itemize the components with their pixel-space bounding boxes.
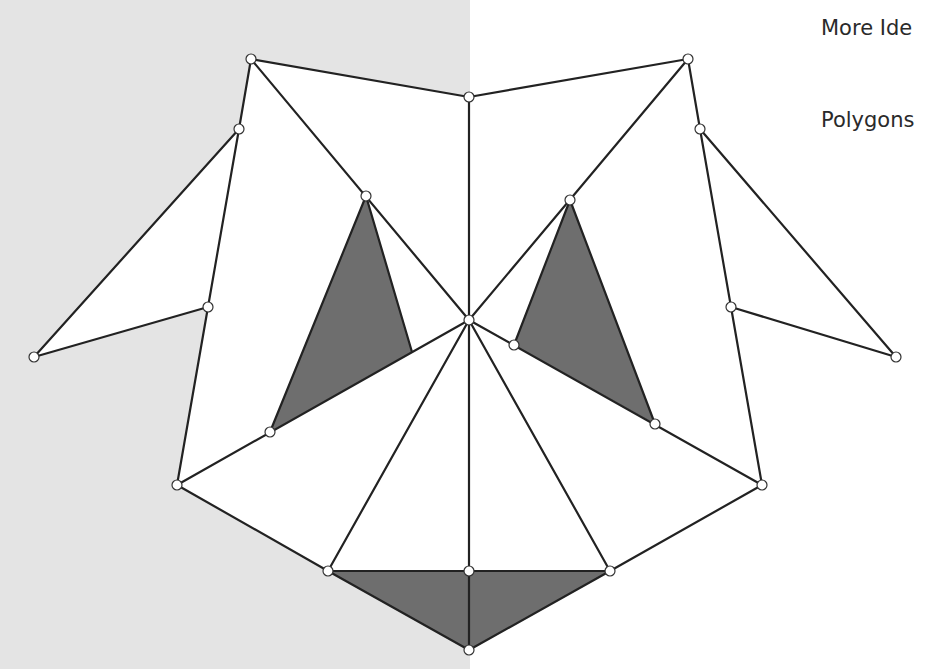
vertex-left-wing-tip <box>29 352 39 362</box>
vertex-right-wing-inner <box>726 302 736 312</box>
slide-title: More Ide <box>821 16 912 40</box>
vertex-bottom-tip <box>464 645 474 655</box>
diagram-white-fill <box>34 59 896 650</box>
vertex-top-left <box>246 54 256 64</box>
vertex-left-wing-inner <box>203 302 213 312</box>
vertex-right-wing-tip <box>891 352 901 362</box>
slide-subtitle: Polygons <box>821 108 914 132</box>
vertex-left-upper <box>234 124 244 134</box>
vertex-right-lower <box>757 480 767 490</box>
vertex-bottom-left <box>323 566 333 576</box>
vertex-right-tri-bottom <box>650 419 660 429</box>
vertex-left-tri-top <box>361 191 371 201</box>
vertex-bottom-mid <box>464 566 474 576</box>
vertex-bottom-right <box>605 566 615 576</box>
body-fill <box>34 59 896 650</box>
vertex-center <box>464 315 474 325</box>
vertex-left-tri-bottom <box>265 427 275 437</box>
vertex-left-lower <box>172 480 182 490</box>
vertex-right-upper <box>695 124 705 134</box>
vertex-top-mid <box>464 92 474 102</box>
vertex-top-right <box>683 54 693 64</box>
vertex-right-tri-top <box>565 195 575 205</box>
polygon-diagram <box>0 0 925 669</box>
vertex-right-tri-left <box>509 340 519 350</box>
